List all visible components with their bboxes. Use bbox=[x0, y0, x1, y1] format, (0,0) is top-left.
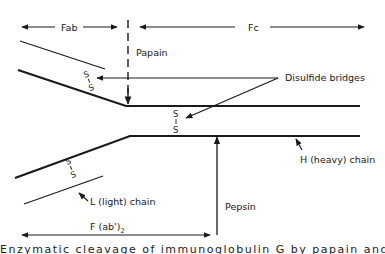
disulfide-pointer-hinge bbox=[186, 78, 278, 118]
lower-lh-disulfide: S S bbox=[64, 156, 77, 180]
heavy-chain-label: H (heavy) chain bbox=[300, 154, 375, 165]
caption-cutoff-text: Enzymatic cleavage of immunoglobulin G b… bbox=[0, 244, 385, 254]
hinge-disulfide: S S bbox=[173, 109, 178, 135]
fab2-label: F (ab')2 bbox=[90, 221, 125, 235]
upper-light-chain bbox=[20, 41, 105, 69]
fc-label: Fc bbox=[248, 22, 259, 33]
pepsin-label: Pepsin bbox=[225, 201, 256, 212]
heavy-chain-pointer bbox=[296, 139, 302, 150]
svg-text:S: S bbox=[82, 69, 91, 80]
light-chain-pointer bbox=[79, 193, 88, 201]
light-chain-label: L (light) chain bbox=[90, 196, 156, 207]
fab-label: Fab bbox=[61, 22, 77, 33]
svg-text:S: S bbox=[69, 169, 78, 180]
svg-text:S: S bbox=[87, 82, 96, 93]
svg-text:S: S bbox=[173, 125, 178, 135]
upper-lh-disulfide: S S bbox=[82, 69, 95, 93]
svg-text:S: S bbox=[173, 109, 178, 119]
caption-cutoff: Enzymatic cleavage of immunoglobulin G b… bbox=[0, 244, 385, 254]
disulfide-label: Disulfide bridges bbox=[285, 72, 365, 83]
papain-label: Papain bbox=[136, 47, 168, 58]
